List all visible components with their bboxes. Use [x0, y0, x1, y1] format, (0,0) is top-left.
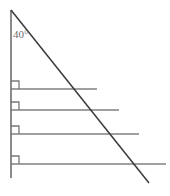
right-angle-markers-group [11, 81, 19, 164]
right-angle-marker-3 [11, 126, 19, 134]
right-angle-marker-1 [11, 81, 19, 89]
right-angle-marker-2 [11, 102, 19, 110]
diagonal-line [11, 10, 149, 183]
angle-label-40-degrees: 40° [13, 29, 28, 40]
geometry-figure: 40° [0, 0, 170, 196]
horizontal-lines-group [11, 89, 166, 164]
right-angle-marker-4 [11, 156, 19, 164]
